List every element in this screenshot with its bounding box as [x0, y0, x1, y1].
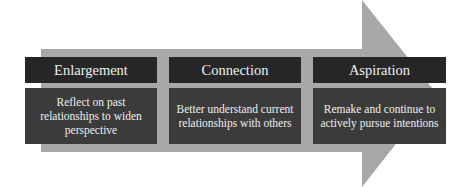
stage-title: Aspiration: [313, 57, 446, 83]
stage-enlargement: Enlargement Reflect on past relationship…: [25, 57, 157, 144]
stage-title: Enlargement: [25, 57, 157, 83]
stage-aspiration: Aspiration Remake and continue to active…: [313, 57, 446, 144]
stage-description: Remake and continue to actively pursue i…: [313, 88, 446, 144]
stage-description: Better understand current relationships …: [169, 88, 301, 144]
stage-description: Reflect on past relationships to widen p…: [25, 88, 157, 144]
stage-connection: Connection Better understand current rel…: [169, 57, 301, 144]
stage-title: Connection: [169, 57, 301, 83]
